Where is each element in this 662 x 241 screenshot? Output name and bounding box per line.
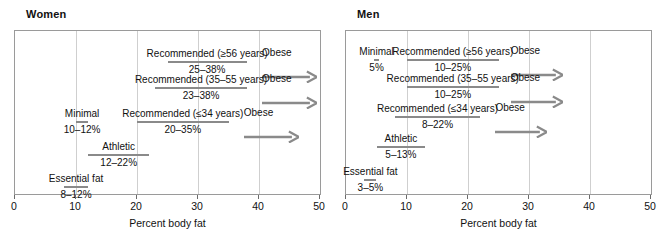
obese-arrow-icon — [495, 120, 547, 138]
range-bar — [364, 179, 376, 182]
x-tick-0 — [14, 195, 15, 199]
obese-group: Obese — [244, 107, 299, 123]
range-bar — [168, 61, 247, 64]
range-group: Essential fat8–12% — [64, 172, 88, 188]
x-tick-label-50: 50 — [644, 200, 656, 212]
range-bar — [377, 146, 426, 149]
x-tick-label-40: 40 — [583, 200, 595, 212]
x-tick-label-30: 30 — [191, 200, 203, 212]
range-value: 3–5% — [358, 182, 384, 193]
obese-group: Obese — [511, 72, 563, 88]
range-label: Recommended (≥56 years) — [147, 48, 268, 59]
body-fat-chart-figure: Women Recommended (≥56 years)25–38%Obese… — [0, 0, 662, 241]
range-group: Minimal10–12% — [76, 107, 88, 123]
x-tick-30 — [197, 195, 198, 199]
obese-label: Obese — [262, 73, 291, 84]
range-label: Recommended (35–55 years) — [135, 74, 267, 85]
obese-group: Obese — [495, 102, 547, 118]
x-tick-label-50: 50 — [313, 200, 325, 212]
x-tick-label-0: 0 — [11, 200, 17, 212]
obese-label: Obese — [495, 102, 524, 113]
range-bar — [137, 121, 229, 124]
x-axis-women: Percent body fat 01020304050 — [14, 195, 321, 241]
obese-label: Obese — [262, 47, 291, 58]
range-value: 8–22% — [422, 119, 453, 130]
panel-title-women: Women — [26, 8, 67, 20]
obese-label: Obese — [511, 45, 540, 56]
range-group: Athletic5–13% — [377, 132, 426, 148]
range-bar — [374, 59, 379, 62]
obese-group: Obese — [511, 45, 563, 61]
x-tick-label-20: 20 — [461, 200, 473, 212]
range-value: 10–12% — [64, 124, 101, 135]
range-value: 23–38% — [183, 90, 220, 101]
x-tick-50 — [319, 195, 320, 199]
x-axis-title-men: Percent body fat — [460, 217, 536, 229]
range-bar — [76, 121, 88, 124]
x-tick-10 — [406, 195, 407, 199]
range-bar — [395, 116, 480, 119]
obese-group: Obese — [262, 73, 317, 89]
range-bar — [407, 59, 499, 62]
x-tick-10 — [75, 195, 76, 199]
range-group: Recommended (35–55 years)10–25% — [407, 72, 499, 88]
obese-label: Obese — [511, 72, 540, 83]
x-tick-label-0: 0 — [342, 200, 348, 212]
x-tick-label-10: 10 — [69, 200, 81, 212]
x-axis-men: Percent body fat 01020304050 — [345, 195, 652, 241]
range-bar — [88, 154, 149, 157]
range-label: Essential fat — [343, 166, 397, 177]
range-group: Essential fat3–5% — [364, 165, 376, 181]
obese-arrow-icon — [244, 125, 299, 143]
gridline-40 — [590, 31, 591, 194]
range-label: Recommended (≤34 years) — [377, 103, 498, 114]
obese-group: Obese — [262, 47, 317, 63]
range-group: Athletic12–22% — [88, 140, 149, 156]
range-bar — [64, 186, 88, 189]
x-tick-label-40: 40 — [252, 200, 264, 212]
panel-women: Women Recommended (≥56 years)25–38%Obese… — [0, 0, 331, 241]
panel-title-men: Men — [357, 8, 380, 20]
plot-area-men: Minimal5%Recommended (≥56 years)10–25%Ob… — [345, 30, 652, 195]
range-group: Recommended (35–55 years)23–38% — [155, 73, 247, 89]
x-tick-20 — [467, 195, 468, 199]
range-value: 5–13% — [385, 149, 416, 160]
plot-area-women: Recommended (≥56 years)25–38%ObeseRecomm… — [14, 30, 321, 195]
range-bar — [155, 87, 247, 90]
x-tick-label-30: 30 — [522, 200, 534, 212]
panel-men: Men Minimal5%Recommended (≥56 years)10–2… — [331, 0, 662, 241]
range-label: Minimal — [65, 108, 99, 119]
range-label: Recommended (≥56 years) — [392, 46, 513, 57]
x-tick-40 — [589, 195, 590, 199]
x-tick-label-20: 20 — [130, 200, 142, 212]
range-group: Recommended (≥56 years)25–38% — [168, 47, 247, 63]
x-axis-title-women: Percent body fat — [129, 217, 205, 229]
x-tick-40 — [258, 195, 259, 199]
x-tick-30 — [528, 195, 529, 199]
x-tick-label-10: 10 — [400, 200, 412, 212]
range-bar — [407, 86, 499, 89]
range-value: 12–22% — [100, 157, 137, 168]
x-tick-20 — [136, 195, 137, 199]
range-label: Minimal — [359, 46, 393, 57]
range-label: Athletic — [102, 141, 135, 152]
range-group: Minimal5% — [374, 45, 379, 61]
x-tick-50 — [650, 195, 651, 199]
range-value: 20–35% — [164, 124, 201, 135]
range-value: 5% — [369, 62, 383, 73]
range-label: Essential fat — [49, 173, 103, 184]
range-label: Recommended (35–55 years) — [387, 73, 519, 84]
range-group: Recommended (≤34 years)8–22% — [395, 102, 480, 118]
x-tick-0 — [345, 195, 346, 199]
range-group: Recommended (≤34 years)20–35% — [137, 107, 229, 123]
range-label: Recommended (≤34 years) — [122, 108, 243, 119]
range-group: Recommended (≥56 years)10–25% — [407, 45, 499, 61]
range-label: Athletic — [384, 133, 417, 144]
obese-label: Obese — [244, 107, 273, 118]
range-value: 10–25% — [434, 89, 471, 100]
